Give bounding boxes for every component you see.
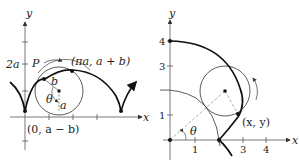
diagram-stage: y x 2a P (πa, a + b) (0, a − b) b a θ [0,0,299,164]
point-xy [236,112,240,116]
right-start-point [168,39,172,43]
dashed-center-point [225,91,238,114]
label-theta-right: θ [190,125,197,138]
y-tick-2a: 2a [5,58,20,71]
y-tick-1: 1 [159,110,165,121]
right-y-axis-label: y [168,7,176,20]
label-xy: (x, y) [242,116,270,129]
left-trochoid-curve [10,70,136,111]
right-center-point [223,89,227,93]
right-cusp-point [217,138,221,142]
right-origin-point [168,138,172,142]
right-angle-theta-arc [180,130,186,140]
label-b: b [51,75,58,88]
right-x-axis-label: x [292,134,299,147]
point-top [70,69,74,73]
label-theta-left: θ [46,93,53,106]
left-cusp-point [23,109,27,113]
right-figure: y x 4 3 1 1 3 4 (x, y) θ [159,7,299,160]
x-tick-4: 4 [263,144,269,155]
label-P: P [31,57,40,70]
right-rotation-arrow-icon [253,78,257,100]
dashed-origin-center [170,91,225,140]
y-tick-3: 3 [159,61,165,72]
left-x-axis-label: x [143,111,150,124]
left-y-axis-label: y [25,7,33,20]
x-tick-3: 3 [240,144,246,155]
right-bold-curve [170,41,243,156]
label-top-point: (πa, a + b) [71,55,130,68]
label-a: a [60,99,67,112]
label-cusp-point: (0, a − b) [27,123,79,136]
left-cusp-point-2 [119,109,123,113]
diagram-svg: y x 2a P (πa, a + b) (0, a − b) b a θ [0,0,299,164]
y-tick-4: 4 [159,36,165,47]
left-figure: y x 2a P (πa, a + b) (0, a − b) b a θ [5,7,150,150]
x-tick-1: 1 [192,144,198,155]
